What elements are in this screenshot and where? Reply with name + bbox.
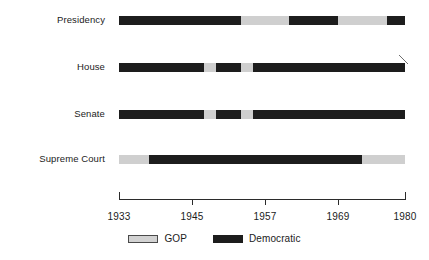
bar-segment-gop[interactable] (241, 110, 253, 119)
bar-segment-gop[interactable] (241, 16, 290, 25)
bar-segment-democratic[interactable] (149, 155, 362, 164)
legend-label-gop: GOP (164, 233, 187, 244)
bar-segment-democratic[interactable] (387, 16, 405, 25)
timeline-bar-senate[interactable] (119, 110, 405, 119)
x-axis-tick-label-1933: 1933 (97, 211, 141, 222)
bar-segment-democratic[interactable] (216, 63, 240, 72)
x-axis-tick-label-1980: 1980 (383, 211, 427, 222)
bar-segment-gop[interactable] (338, 16, 387, 25)
bar-segment-democratic[interactable] (216, 110, 240, 119)
timeline-bar-supreme-court[interactable] (119, 155, 405, 164)
timeline-bar-presidency[interactable] (119, 16, 405, 25)
row-label-house: House (0, 62, 105, 72)
row-label-senate: Senate (0, 109, 105, 119)
bar-segment-gop[interactable] (119, 155, 149, 164)
bar-segment-democratic[interactable] (119, 110, 204, 119)
bar-segment-gop[interactable] (362, 155, 405, 164)
party-control-timeline-chart: PresidencyHouseSenateSupreme Court 19331… (0, 0, 429, 260)
x-axis-line (119, 199, 405, 200)
x-axis-tick-1957 (265, 199, 266, 205)
bar-segment-democratic[interactable] (119, 63, 204, 72)
bar-segment-democratic[interactable] (289, 16, 338, 25)
legend-label-democratic: Democratic (249, 233, 301, 244)
legend-swatch-democratic-icon (213, 235, 243, 243)
bar-segment-democratic[interactable] (253, 110, 405, 119)
x-axis-tick-1945 (192, 199, 193, 205)
legend-entry-democratic[interactable]: Democratic (213, 233, 301, 244)
row-label-supreme-court: Supreme Court (0, 154, 105, 164)
x-axis-tick-label-1945: 1945 (170, 211, 214, 222)
bar-segment-gop[interactable] (204, 110, 216, 119)
x-axis-tick-label-1969: 1969 (316, 211, 360, 222)
x-axis-tick-label-1957: 1957 (243, 211, 287, 222)
bar-segment-democratic[interactable] (119, 16, 241, 25)
row-label-presidency: Presidency (0, 15, 105, 25)
chart-legend: GOP Democratic (0, 233, 429, 244)
bar-segment-gop[interactable] (204, 63, 216, 72)
legend-entry-gop[interactable]: GOP (128, 233, 187, 244)
timeline-bar-house[interactable] (119, 63, 405, 72)
x-axis-tick-1980 (405, 192, 406, 200)
scan-artifact-mark (399, 55, 408, 64)
legend-swatch-gop-icon (128, 235, 158, 243)
bar-segment-democratic[interactable] (253, 63, 405, 72)
x-axis-tick-1969 (338, 199, 339, 205)
bar-segment-gop[interactable] (241, 63, 253, 72)
x-axis-tick-1933 (119, 192, 120, 200)
